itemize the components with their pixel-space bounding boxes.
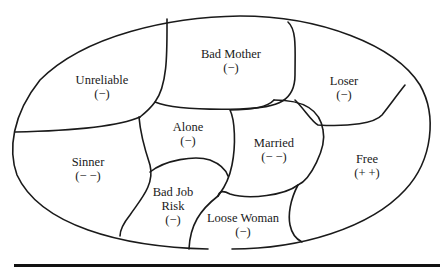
boundary-free-loosewoman — [289, 185, 302, 242]
label-married: Married — [254, 136, 295, 150]
label-unreliable: Unreliable — [76, 73, 129, 87]
valence-loose-woman: (−) — [235, 225, 250, 239]
label-sinner: Sinner — [72, 155, 105, 169]
bottom-rule — [14, 264, 440, 267]
boundary-alone-sinner — [120, 117, 151, 236]
label-loser: Loser — [330, 74, 359, 88]
valence-sinner: (− −) — [75, 169, 101, 183]
boundary-unreliable-badmother — [140, 19, 167, 117]
boundary-unreliable-sinner — [15, 117, 140, 132]
label-free: Free — [356, 152, 379, 166]
valence-bad-job-risk: (−) — [165, 213, 180, 227]
valence-bad-mother: (−) — [223, 61, 238, 75]
valence-married: (− −) — [261, 150, 287, 164]
region-diagram: Unreliable (−) Bad Mother (−) Loser (−) … — [0, 0, 440, 271]
valence-unreliable: (−) — [94, 87, 109, 101]
label-bad-mother: Bad Mother — [201, 47, 262, 61]
valence-alone: (−) — [180, 134, 195, 148]
boundary-alone-badjob — [150, 158, 228, 176]
label-bad-job: Bad Job — [153, 185, 194, 199]
label-alone: Alone — [173, 120, 204, 134]
label-risk: Risk — [162, 199, 186, 213]
region-labels: Unreliable (−) Bad Mother (−) Loser (−) … — [72, 47, 380, 239]
valence-free: (+ +) — [354, 166, 380, 180]
valence-loser: (−) — [336, 88, 351, 102]
label-loose-woman: Loose Woman — [207, 211, 280, 225]
